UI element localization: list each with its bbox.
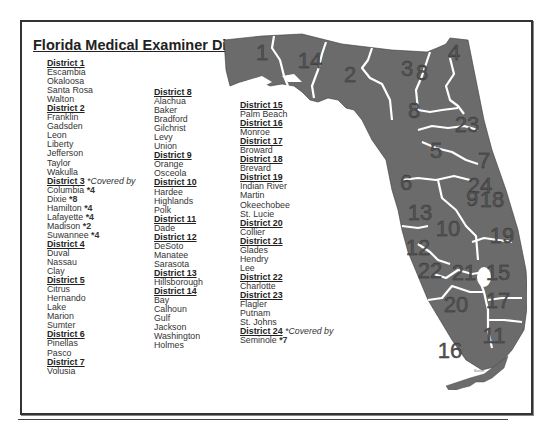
district-name: District 10 — [154, 177, 197, 187]
district-number-label: 12 — [406, 235, 430, 260]
district-number-label: 23 — [455, 112, 479, 137]
divider — [18, 419, 508, 420]
district-number-label: 8 — [408, 98, 420, 123]
district-number-label: 19 — [490, 223, 514, 248]
district-column-2: District 8AlachuaBakerBradfordGilchristL… — [154, 88, 203, 350]
covering-district: *4 — [91, 230, 99, 240]
florida-districts-map: 1142384238752469181310191222211520171116… — [222, 30, 527, 390]
district-number-label: 14 — [298, 48, 322, 73]
district-number-label: 15 — [486, 260, 510, 285]
district-number-label: 10 — [436, 216, 460, 241]
district-number-label: 6 — [400, 170, 412, 195]
district-number-label: 1 — [256, 40, 268, 65]
state-shape — [224, 34, 527, 390]
district-number-label: 21 — [452, 260, 476, 285]
district-number-label: 8 — [416, 60, 428, 85]
county-item: Holmes — [154, 341, 203, 350]
district-number-label: 11 — [483, 323, 506, 348]
district-number-label: 16 — [438, 338, 462, 363]
district-number-label: 5 — [430, 138, 442, 163]
monroe-keys-label: Monroe — [474, 369, 485, 373]
district-number-label: 17 — [486, 288, 510, 313]
district-number-label: 9 — [466, 186, 478, 211]
district-number-label: 3 — [401, 56, 413, 81]
district-column-1: District 1EscambiaOkaloosaSanta RosaWalt… — [47, 59, 136, 376]
district-number-label: 18 — [480, 187, 504, 212]
covering-district: *4 — [87, 185, 95, 195]
district-number-label: 2 — [344, 62, 356, 87]
district-number-label: 7 — [478, 148, 490, 173]
district-number-label: 20 — [444, 292, 468, 317]
district-number-label: 4 — [448, 40, 460, 65]
district-number-label: 22 — [418, 258, 442, 283]
county-item: Volusia — [47, 367, 136, 376]
district-number-label: 13 — [408, 200, 432, 225]
